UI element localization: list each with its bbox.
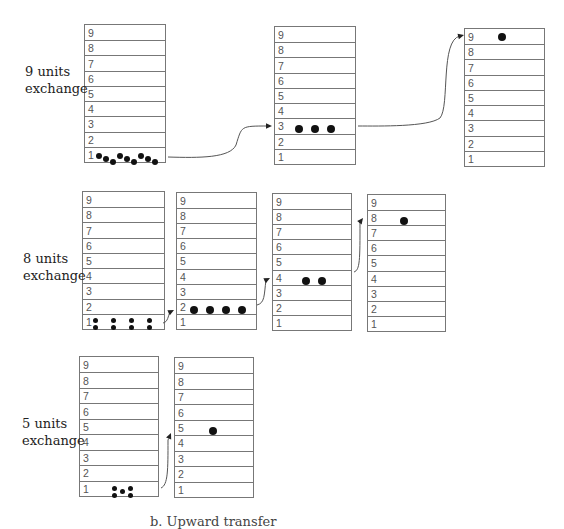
figure-caption: b. Upward transfer <box>150 514 276 529</box>
transition-arrow <box>358 36 460 126</box>
transition-arrow <box>163 312 170 323</box>
row-label-line2: exchange <box>23 267 86 284</box>
row-label-line1: 9 units <box>25 63 88 80</box>
row-label-line1: 8 units <box>23 250 86 267</box>
row-label-line2: exchange <box>25 80 88 97</box>
row-label: 8 unitsexchange <box>23 250 86 284</box>
arrowhead-icon <box>263 278 270 283</box>
row-label-line1: 5 units <box>22 415 85 432</box>
transition-arrow <box>257 280 266 305</box>
arrowhead-icon <box>458 34 464 39</box>
row-label: 9 unitsexchange <box>25 63 88 97</box>
arrowhead-icon <box>167 310 174 315</box>
row-label-line2: exchange <box>22 432 85 449</box>
transition-arrow <box>161 440 168 488</box>
transition-arrow <box>168 126 268 157</box>
arrowhead-icon <box>266 123 272 129</box>
row-label: 5 unitsexchange <box>22 415 85 449</box>
transition-arrow <box>354 222 360 272</box>
